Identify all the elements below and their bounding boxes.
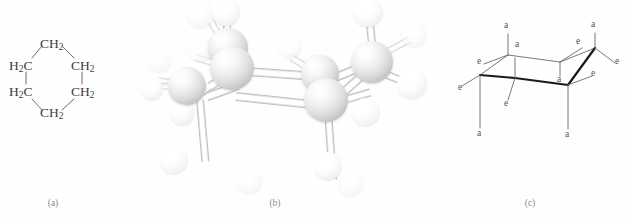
hydrogen-atom: [352, 98, 380, 126]
axial-label: a: [591, 19, 595, 29]
hydrogen-atom: [212, 0, 240, 26]
panel-b-ball-and-stick-model: [140, 0, 460, 190]
carbon-atom: [304, 78, 348, 122]
hydrogen-atom: [353, 0, 383, 27]
equatorial-label: e: [576, 36, 580, 46]
h2c-label-lower-left: H2C: [9, 84, 33, 100]
carbon-atom: [351, 41, 393, 83]
equatorial-label: e: [477, 56, 481, 66]
equatorial-label: e: [504, 98, 508, 108]
ch2-label-upper-right: CH2: [71, 58, 95, 74]
axial-label: a: [477, 128, 481, 138]
panel-a-structural-formula: CH2 CH2 CH2 CH2 H2C H2C: [0, 0, 140, 190]
caption-panel-c: (c): [510, 198, 550, 208]
axial-label: a: [557, 74, 561, 84]
ch2-label-bottom: CH2: [40, 105, 64, 121]
caption-panel-a: (a): [33, 198, 73, 208]
equatorial-label: e: [591, 68, 595, 78]
carbon-atom: [168, 67, 206, 105]
hydrogen-atom: [278, 34, 302, 58]
axial-label: a: [565, 129, 569, 139]
chair-conformation-lines: [460, 0, 625, 190]
carbon-hydrogen-bond: [196, 100, 209, 162]
hydrogen-atom: [401, 21, 427, 47]
hydrogen-atom: [397, 69, 427, 99]
hydrogen-atom: [236, 168, 262, 194]
hydrogen-atom: [148, 48, 172, 72]
hydrogen-atom: [338, 170, 364, 196]
chemistry-figure: CH2 CH2 CH2 CH2 H2C H2C: [0, 0, 625, 224]
ch2-label-lower-right: CH2: [71, 84, 95, 100]
caption-panel-b: (b): [255, 198, 295, 208]
axial-label: a: [504, 20, 508, 30]
hydrogen-atom: [186, 0, 214, 28]
axial-label: a: [515, 39, 519, 49]
equatorial-label: e: [615, 56, 619, 66]
h2c-label-upper-left: H2C: [9, 58, 33, 74]
ch2-label-top: CH2: [40, 36, 64, 52]
equatorial-label: e: [458, 82, 462, 92]
hydrogen-atom: [314, 152, 342, 180]
hydrogen-atom: [141, 78, 163, 100]
hydrogen-atom: [160, 146, 188, 174]
panel-c-chair-conformation: a a a a a a e e e e e e: [460, 0, 625, 190]
carbon-atom: [210, 46, 254, 90]
